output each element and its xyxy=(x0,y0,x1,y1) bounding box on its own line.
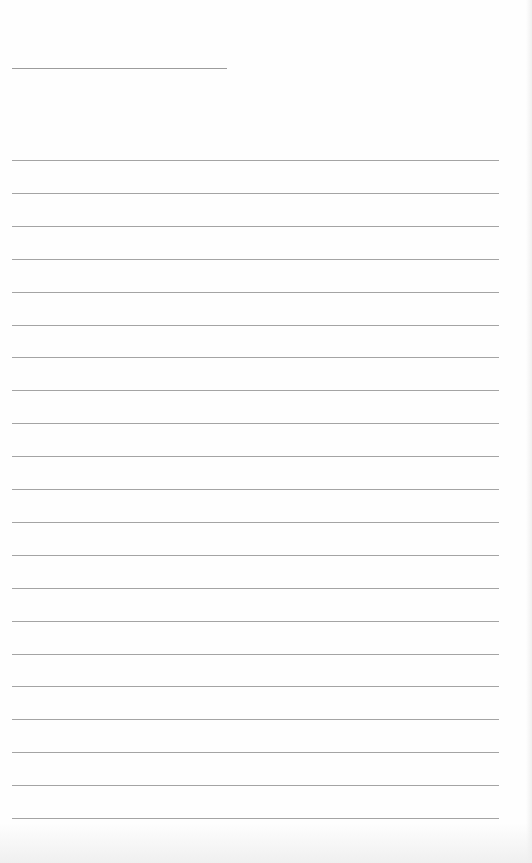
writing-line xyxy=(12,621,499,622)
writing-line xyxy=(12,423,499,424)
writing-line xyxy=(12,522,499,523)
lined-paper-page xyxy=(0,0,532,863)
writing-line xyxy=(12,226,499,227)
writing-line xyxy=(12,686,499,687)
writing-line xyxy=(12,489,499,490)
writing-line xyxy=(12,193,499,194)
writing-line xyxy=(12,456,499,457)
writing-line xyxy=(12,785,499,786)
writing-line xyxy=(12,357,499,358)
paper-edge-shadow xyxy=(526,0,532,863)
writing-line xyxy=(12,555,499,556)
paper-bottom-texture xyxy=(0,823,532,863)
writing-line xyxy=(12,588,499,589)
writing-line xyxy=(12,818,499,819)
writing-line xyxy=(12,654,499,655)
writing-line xyxy=(12,259,499,260)
writing-line xyxy=(12,325,499,326)
writing-line xyxy=(12,719,499,720)
writing-line xyxy=(12,752,499,753)
writing-line xyxy=(12,160,499,161)
title-line xyxy=(12,68,227,69)
writing-line xyxy=(12,390,499,391)
writing-line xyxy=(12,292,499,293)
